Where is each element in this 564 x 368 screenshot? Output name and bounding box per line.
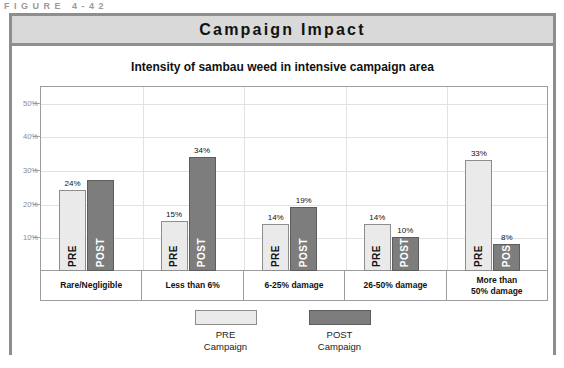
bar-series-label: PRE — [372, 245, 382, 267]
bar-post[interactable]: POST — [493, 244, 520, 271]
bar-value-label: 14% — [369, 213, 385, 222]
category-axis: Rare/NegligibleLess than 6%6-25% damage2… — [40, 271, 548, 301]
gridline — [41, 137, 547, 138]
bar-series-label: POST — [502, 244, 512, 267]
bar-post[interactable]: POST — [290, 207, 317, 271]
category-label: 6-25% damage — [244, 271, 345, 300]
bar-pre[interactable]: PRE — [364, 224, 391, 271]
y-axis-tick-label: 30% — [8, 166, 38, 175]
bar-series-label: POST — [96, 238, 106, 267]
bar-value-label: 15% — [166, 210, 182, 219]
chart-title: Intensity of sambau weed in intensive ca… — [12, 60, 553, 74]
chart-legend: PRECampaignPOSTCampaign — [12, 310, 553, 353]
gridline — [41, 104, 547, 105]
banner-title: Campaign Impact — [199, 21, 365, 39]
bar-value-label: 8% — [501, 233, 513, 242]
category-label: More than50% damage — [447, 271, 547, 300]
category-label: Less than 6% — [142, 271, 243, 300]
legend-label-line1: PRE — [189, 329, 263, 341]
legend-swatch — [309, 310, 371, 325]
bar-value-label: 19% — [296, 196, 312, 205]
legend-swatch — [195, 310, 257, 325]
category-separator — [447, 87, 448, 270]
bar-series-label: POST — [197, 238, 207, 267]
category-label: Rare/Negligible — [41, 271, 142, 300]
bar-series-label: POST — [400, 238, 410, 267]
bar-pre[interactable]: PRE — [465, 160, 492, 271]
bar-pre[interactable]: PRE — [262, 224, 289, 271]
bar-series-label: POST — [299, 238, 309, 267]
figure-frame: Campaign Impact Intensity of sambau weed… — [9, 13, 556, 355]
bar-series-label: PRE — [474, 245, 484, 267]
category-label: 26-50% damage — [345, 271, 446, 300]
legend-item[interactable]: POSTCampaign — [303, 310, 377, 353]
legend-item[interactable]: PRECampaign — [189, 310, 263, 353]
y-axis-tick-label: 10% — [8, 233, 38, 242]
bar-value-label: 33% — [471, 149, 487, 158]
bar-pre[interactable]: PRE — [161, 221, 188, 271]
chart-body: Intensity of sambau weed in intensive ca… — [12, 46, 553, 355]
bar-series-label: PRE — [271, 245, 281, 267]
bar-value-label: 10% — [397, 226, 413, 235]
y-axis-tick-label: 40% — [8, 132, 38, 141]
bar-series-label: PRE — [169, 245, 179, 267]
y-axis-tick-label: 50% — [8, 98, 38, 107]
bar-post[interactable]: POST — [87, 180, 114, 271]
category-separator — [346, 87, 347, 270]
legend-label-line1: POST — [303, 329, 377, 341]
bar-pre[interactable]: PRE — [59, 190, 86, 271]
y-axis-tick-label: 20% — [8, 199, 38, 208]
bar-value-label: 14% — [268, 213, 284, 222]
figure-caption: FIGURE 4-42 — [4, 0, 108, 13]
bar-series-label: PRE — [68, 245, 78, 267]
category-separator — [143, 87, 144, 270]
bar-post[interactable]: POST — [392, 237, 419, 271]
plot-wrapper: 10%20%30%40%50% PRE24%POSTPRE15%POST34%P… — [40, 86, 548, 271]
legend-label-line2: Campaign — [303, 341, 377, 353]
bar-value-label: 34% — [194, 146, 210, 155]
banner-title-bar: Campaign Impact — [12, 16, 553, 46]
category-separator — [244, 87, 245, 270]
bar-post[interactable]: POST — [189, 157, 216, 271]
bar-value-label: 24% — [64, 179, 80, 188]
legend-label-line2: Campaign — [189, 341, 263, 353]
